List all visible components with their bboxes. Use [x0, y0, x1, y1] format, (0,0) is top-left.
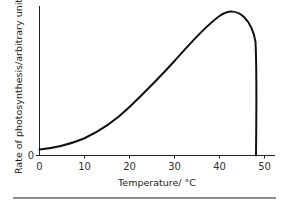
x-tick-label: 20 — [123, 161, 136, 172]
x-tick-label: 30 — [168, 161, 181, 172]
x-tick-label: 0 — [36, 161, 42, 172]
x-tick-label: 50 — [258, 161, 271, 172]
x-axis-title: Temperature/ °C — [117, 177, 196, 188]
y-axis-title: Rate of photosynthesis/arbitrary units — [13, 0, 24, 174]
y-tick-label-zero: 0 — [28, 150, 34, 161]
x-tick-label: 40 — [213, 161, 226, 172]
x-tick-label: 10 — [78, 161, 91, 172]
rate-curve — [40, 12, 257, 156]
x-tick-labels: 0 10 20 30 40 50 — [36, 161, 271, 172]
photosynthesis-chart: 0 10 20 30 40 50 0 Temperature/ °C Rate … — [0, 0, 285, 201]
